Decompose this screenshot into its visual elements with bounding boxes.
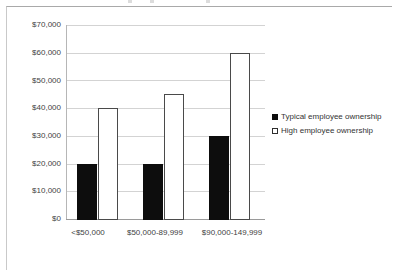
bar-chart: $70,000 $60,000 $50,000 $40,000 $30,000 … bbox=[0, 0, 393, 270]
bar-high-group2 bbox=[164, 94, 184, 220]
y-axis-tick-label: $20,000 bbox=[1, 160, 61, 168]
gridline bbox=[66, 25, 265, 26]
y-axis-tick-label: $10,000 bbox=[1, 187, 61, 195]
legend-item-typical: Typical employee ownership bbox=[272, 113, 382, 121]
legend-item-high: High employee ownership bbox=[272, 127, 382, 135]
legend-swatch-filled-square-icon bbox=[272, 114, 278, 120]
bar-typical-group2 bbox=[143, 164, 163, 220]
x-axis-tick-label: $50,000-89,999 bbox=[116, 228, 194, 237]
legend-label-high: High employee ownership bbox=[281, 127, 373, 135]
bar-high-group3 bbox=[230, 53, 250, 220]
y-axis-tick-label: $60,000 bbox=[1, 49, 61, 57]
bar-typical-group3 bbox=[209, 136, 229, 220]
y-axis-tick-label: $0 bbox=[1, 215, 61, 223]
legend-label-typical: Typical employee ownership bbox=[281, 113, 382, 121]
y-axis-tick-label: $40,000 bbox=[1, 104, 61, 112]
chart-legend: Typical employee ownership High employee… bbox=[272, 113, 382, 141]
plot-area bbox=[66, 25, 265, 219]
bar-high-group1 bbox=[98, 108, 118, 220]
x-axis-tick-label: $90,000-149,999 bbox=[190, 228, 274, 237]
y-axis-tick-label: $50,000 bbox=[1, 77, 61, 85]
y-axis-tick-label: $30,000 bbox=[1, 132, 61, 140]
y-axis-line bbox=[66, 25, 67, 219]
bar-typical-group1 bbox=[77, 164, 97, 220]
y-axis-tick-label: $70,000 bbox=[1, 21, 61, 29]
legend-swatch-hollow-square-icon bbox=[272, 128, 278, 134]
x-axis-tick-label: <$50,000 bbox=[58, 228, 118, 237]
